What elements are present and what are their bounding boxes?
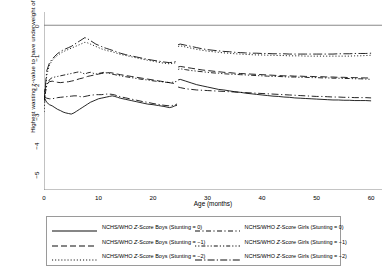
legend-label: NCHS/WHO Z-Score Boys (Stunting = −2) <box>102 253 205 259</box>
y-tick-label: −3 <box>33 113 40 129</box>
legend-line-key <box>194 251 241 261</box>
legend-entry-left: NCHS/WHO Z-Score Boys (Stunting = 0) <box>51 222 194 232</box>
legend-label: NCHS/WHO Z-Score Girls (Stunting = −1) <box>245 239 347 245</box>
legend-row: NCHS/WHO Z-Score Boys (Stunting = −2)NCH… <box>51 249 336 264</box>
legend-entry-right: NCHS/WHO Z-Score Girls (Stunting = −1) <box>194 237 337 247</box>
legend-label: NCHS/WHO Z-Score Girls (Stunting = −2) <box>245 253 347 259</box>
x-axis-label: Age (months) <box>44 200 382 207</box>
series-group <box>44 38 371 114</box>
series-line-4-seg-1 <box>178 69 371 80</box>
chart-svg <box>44 12 382 190</box>
y-tick-label: −1 <box>33 54 40 70</box>
series-line-0-seg-0 <box>44 96 177 114</box>
y-axis-label-wrap: Highest wasting z-value to have underwei… <box>0 0 30 190</box>
legend-entry-left: NCHS/WHO Z-Score Boys (Stunting = −1) <box>51 237 194 247</box>
legend-label: NCHS/WHO Z-Score Boys (Stunting = −1) <box>102 239 205 245</box>
y-tick-label: 0 <box>33 25 40 41</box>
legend-row: NCHS/WHO Z-Score Boys (Stunting = 0)NCHS… <box>51 220 336 235</box>
series-line-1-seg-0 <box>44 73 177 93</box>
legend-entry-right: NCHS/WHO Z-Score Girls (Stunting = 0) <box>194 222 337 232</box>
series-line-2-seg-1 <box>178 46 371 56</box>
axes-group <box>44 12 382 190</box>
y-tick-label: −4 <box>33 142 40 158</box>
figure: Highest wasting z-value to have underwei… <box>0 0 387 274</box>
series-line-1-seg-1 <box>178 66 371 78</box>
legend-line-key <box>194 222 241 232</box>
legend: NCHS/WHO Z-Score Boys (Stunting = 0)NCHS… <box>46 216 341 266</box>
legend-label: NCHS/WHO Z-Score Boys (Stunting = 0) <box>102 224 202 230</box>
legend-line-key <box>51 251 98 261</box>
y-tick-label: −5 <box>33 172 40 188</box>
y-tick-label: −2 <box>33 84 40 100</box>
plot-area <box>44 12 382 190</box>
series-line-2-seg-0 <box>44 42 177 112</box>
legend-line-key <box>51 222 98 232</box>
series-line-5-seg-0 <box>44 38 177 102</box>
series-line-5-seg-1 <box>178 44 371 54</box>
legend-line-key <box>51 237 98 247</box>
legend-label: NCHS/WHO Z-Score Girls (Stunting = 0) <box>245 224 344 230</box>
legend-entry-left: NCHS/WHO Z-Score Boys (Stunting = −2) <box>51 251 194 261</box>
legend-row: NCHS/WHO Z-Score Boys (Stunting = −1)NCH… <box>51 235 336 250</box>
legend-entry-right: NCHS/WHO Z-Score Girls (Stunting = −2) <box>194 251 337 261</box>
legend-line-key <box>194 237 241 247</box>
